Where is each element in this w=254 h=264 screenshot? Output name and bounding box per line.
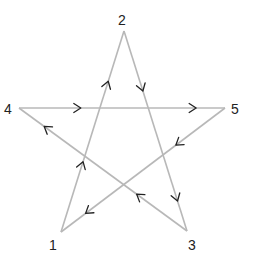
edge-1-to-2: [61, 31, 124, 232]
vertex-label-3: 3: [188, 237, 196, 253]
vertex-label-2: 2: [118, 12, 126, 28]
vertex-label-1: 1: [49, 237, 57, 253]
labels-group: 1 2 3 4 5: [4, 12, 239, 253]
edges-group: [19, 31, 225, 232]
vertex-label-5: 5: [231, 101, 239, 117]
pentagram-diagram: 1 2 3 4 5: [0, 0, 254, 264]
vertex-label-4: 4: [4, 101, 12, 117]
